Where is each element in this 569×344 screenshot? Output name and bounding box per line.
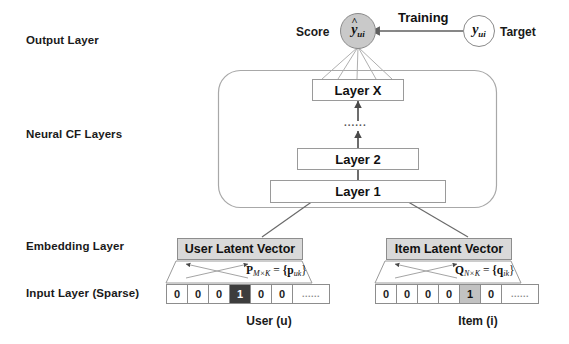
item-matrix-entries-close: }	[509, 264, 515, 276]
score-node: ^ y ui	[340, 13, 376, 49]
item-embedding-matrix-formula: QN×K = {qik}	[455, 264, 515, 278]
item-onehot-overflow-cell: ......	[502, 285, 538, 303]
user-matrix-dims: M×K	[253, 269, 270, 278]
user-embedding-matrix-formula: PM×K = {puk}	[246, 264, 307, 278]
layer-1-label: Layer 1	[335, 184, 381, 199]
target-node: yui	[463, 15, 495, 47]
item-matrix-entries: {q	[492, 264, 503, 276]
item-caption-text: Item (i)	[458, 314, 497, 328]
row-label-neural-cf-layers: Neural CF Layers	[26, 128, 122, 140]
item-onehot-hot-cell: 1	[460, 285, 481, 303]
layer-x-box: Layer X	[312, 79, 404, 101]
user-onehot-hot-cell: 1	[230, 285, 251, 303]
layer-2-label: Layer 2	[335, 152, 381, 167]
user-matrix-symbol: P	[246, 264, 253, 276]
user-onehot-cell: 0	[188, 285, 209, 303]
target-node-math: yui	[472, 23, 486, 39]
user-onehot-overflow-cell: ......	[293, 285, 329, 303]
user-matrix-entries: {p	[283, 264, 294, 276]
item-onehot-cell: 0	[418, 285, 439, 303]
training-label: Training	[398, 10, 449, 25]
row-label-output-layer: Output Layer	[26, 34, 99, 46]
item-caption: Item (i)	[405, 314, 551, 328]
score-label: Score	[296, 25, 329, 39]
score-node-math: ^ y ui	[351, 23, 365, 39]
item-onehot-cell: 0	[376, 285, 397, 303]
row-label-embedding-layer: Embedding Layer	[26, 240, 124, 252]
user-onehot-cell: 0	[272, 285, 293, 303]
ncf-architecture-diagram: Output Layer Neural CF Layers Embedding …	[0, 0, 569, 344]
item-matrix-symbol: Q	[455, 264, 464, 276]
score-sub: ui	[357, 29, 365, 39]
item-onehot-cell: 0	[439, 285, 460, 303]
row-label-input-layer: Input Layer (Sparse)	[26, 287, 139, 299]
user-caption: User (u)	[196, 314, 342, 328]
user-matrix-equals: =	[273, 264, 280, 276]
item-latent-vector-box: Item Latent Vector	[386, 238, 512, 260]
item-projection-cross-lines	[395, 264, 457, 278]
layer-2-box: Layer 2	[297, 148, 419, 170]
user-projection-cross-lines	[186, 264, 248, 278]
item-latent-vector-label: Item Latent Vector	[395, 242, 503, 256]
layer-1-box: Layer 1	[270, 180, 446, 203]
user-onehot-cell: 0	[167, 285, 188, 303]
item-onehot-cell: 0	[481, 285, 502, 303]
user-latent-vector-box: User Latent Vector	[177, 238, 303, 260]
user-matrix-entries-close: }	[301, 264, 307, 276]
target-label: Target	[500, 25, 536, 39]
item-onehot-cell: 0	[397, 285, 418, 303]
item-matrix-equals: =	[483, 264, 490, 276]
target-sub: ui	[478, 29, 486, 39]
user-caption-text: User (u)	[246, 314, 291, 328]
user-onehot-vector: 000100......	[166, 284, 330, 304]
layerx-to-score-fan	[322, 47, 392, 79]
item-onehot-vector: 000010......	[375, 284, 539, 304]
item-matrix-dims: N×K	[464, 269, 480, 278]
layer-x-label: Layer X	[335, 83, 382, 98]
user-onehot-cell: 0	[251, 285, 272, 303]
score-hat: ^	[351, 16, 357, 27]
layer-ellipsis: ......	[344, 117, 367, 128]
user-latent-vector-label: User Latent Vector	[185, 242, 295, 256]
user-onehot-cell: 0	[209, 285, 230, 303]
